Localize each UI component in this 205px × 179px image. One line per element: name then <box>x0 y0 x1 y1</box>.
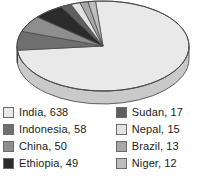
legend-label: India, 638 <box>19 107 68 118</box>
legend-item-nepal[interactable]: Nepal, 15 <box>116 121 205 138</box>
legend-color-swatch <box>3 107 14 118</box>
legend-color-swatch <box>116 141 127 152</box>
legend-color-swatch <box>3 141 14 152</box>
legend-color-swatch <box>116 107 127 118</box>
legend-column-left: India, 638Indonesia, 58China, 50Ethiopia… <box>0 104 95 179</box>
pie-chart-figure: India, 638Indonesia, 58China, 50Ethiopia… <box>0 0 205 179</box>
legend-item-ethiopia[interactable]: Ethiopia, 49 <box>3 155 95 172</box>
legend-label: Brazil, 13 <box>132 141 179 152</box>
legend-color-swatch <box>116 124 127 135</box>
legend-label: Indonesia, 58 <box>19 124 86 135</box>
legend-color-swatch <box>3 124 14 135</box>
legend-color-swatch <box>116 158 127 169</box>
legend-label: China, 50 <box>19 141 67 152</box>
legend-item-china[interactable]: China, 50 <box>3 138 95 155</box>
legend-color-swatch <box>3 158 14 169</box>
legend-label: Nepal, 15 <box>132 124 180 135</box>
legend-item-sudan[interactable]: Sudan, 17 <box>116 104 205 121</box>
legend-label: Sudan, 17 <box>132 107 183 118</box>
legend-item-indonesia[interactable]: Indonesia, 58 <box>3 121 95 138</box>
legend-column-right: Sudan, 17Nepal, 15Brazil, 13Niger, 12 <box>95 104 205 179</box>
chart-legend: India, 638Indonesia, 58China, 50Ethiopia… <box>0 104 205 179</box>
legend-item-niger[interactable]: Niger, 12 <box>116 155 205 172</box>
pie-slices <box>17 1 189 91</box>
legend-label: Ethiopia, 49 <box>19 158 78 169</box>
pie-chart-plot-area <box>0 0 205 106</box>
pie-chart-svg <box>0 0 205 106</box>
legend-item-india[interactable]: India, 638 <box>3 104 95 121</box>
legend-label: Niger, 12 <box>132 158 177 169</box>
legend-item-brazil[interactable]: Brazil, 13 <box>116 138 205 155</box>
